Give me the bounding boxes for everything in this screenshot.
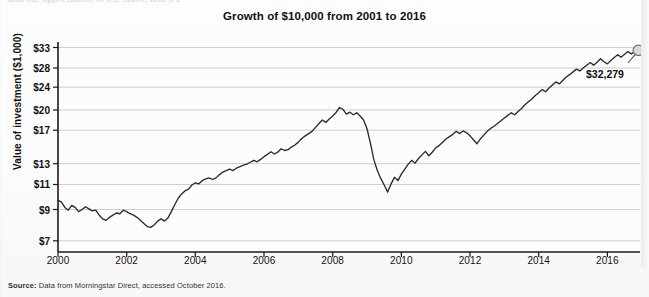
plot-background [58,42,640,252]
end-value-callout-label: $32,279 [586,68,624,80]
source-note-label: Source: [8,281,37,290]
y-tick-label: $28 [16,63,50,74]
x-tick-label: 2006 [253,255,276,266]
line-chart-svg [0,0,649,268]
y-tick-label: $24 [16,82,50,93]
y-tick-label: $13 [16,158,50,169]
x-tick-label: 2000 [47,255,70,266]
y-tick-label: $17 [16,125,50,136]
y-tick-label: $9 [16,204,50,215]
y-tick-label: $7 [16,235,50,246]
chart-plot-area: Value of investment ($1,000) $7$9$11$13$… [0,0,649,268]
page-edge-shadow [641,0,649,268]
source-note: Source: Data from Morningstar Direct, ac… [8,281,226,290]
x-tick-label: 2002 [115,255,138,266]
x-tick-label: 2010 [390,255,413,266]
x-tick-label: 2012 [459,255,482,266]
y-tick-label: $11 [16,179,50,190]
x-tick-label: 2004 [184,255,207,266]
x-tick-label: 2016 [596,255,619,266]
y-tick-label: $20 [16,104,50,115]
y-tick-label: $33 [16,42,50,53]
source-note-text: Data from Morningstar Direct, accessed O… [37,281,226,290]
x-tick-label: 2014 [527,255,550,266]
x-tick-label: 2008 [321,255,344,266]
